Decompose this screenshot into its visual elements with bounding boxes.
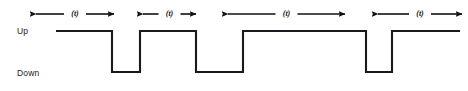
interval-label-2: (t): [166, 10, 174, 18]
signal-polyline: [56, 31, 460, 72]
interval-label-4: (t): [416, 10, 424, 18]
axis-label-down: Down: [17, 69, 40, 78]
axis-label-up: Up: [17, 27, 28, 36]
interval-label-1: (t): [71, 10, 79, 18]
interval-label-3: (t): [283, 10, 291, 18]
timing-diagram-figure: Up Down (t)(t)(t)(t): [0, 0, 468, 91]
timing-diagram-canvas: [0, 0, 468, 91]
waveform-trace: [56, 31, 460, 72]
